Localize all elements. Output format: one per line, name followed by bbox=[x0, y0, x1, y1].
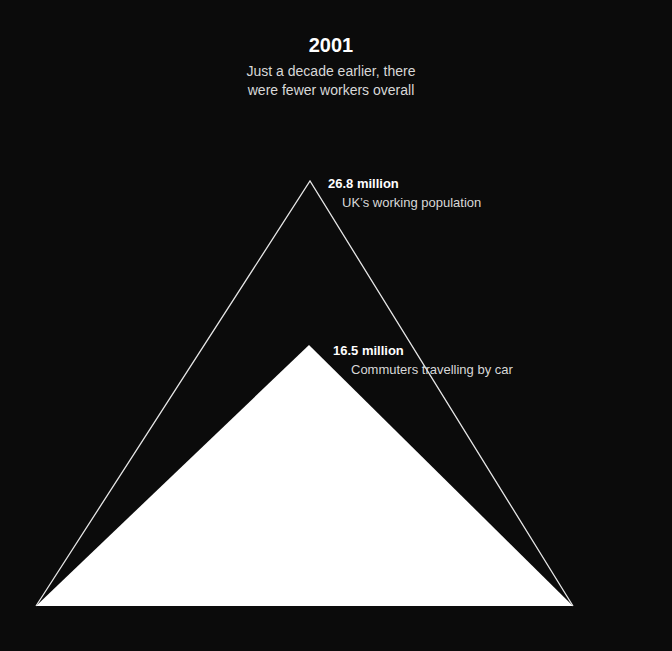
working-population-value: 26.8 million bbox=[328, 176, 481, 192]
inner-triangle-label: 16.5 million Commuters travelling by car bbox=[333, 343, 513, 379]
car-commuters-description: Commuters travelling by car bbox=[333, 361, 513, 379]
car-commuters-value: 16.5 million bbox=[333, 343, 513, 359]
working-population-description: UK’s working population bbox=[328, 194, 481, 212]
triangle-chart bbox=[0, 0, 672, 651]
outer-triangle-label: 26.8 million UK’s working population bbox=[328, 176, 481, 212]
